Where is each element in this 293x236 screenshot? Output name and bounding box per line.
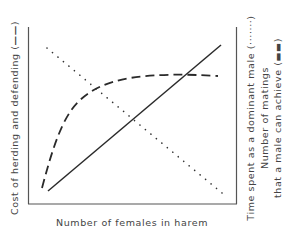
series-dominance-time: [47, 48, 222, 193]
right-axis-label-2: Number of matings: [259, 67, 270, 169]
series-matings: [42, 75, 218, 188]
series-cost: [48, 45, 221, 191]
harem-chart: Number of females in harem Cost of herdi…: [0, 0, 293, 236]
right-axis-label-1: Time spent as a dominant male (·······): [245, 15, 256, 221]
left-axis-label: Cost of herding and defending (——): [9, 21, 20, 215]
right-axis-label-3: that a male can achieve (▬▬): [272, 38, 283, 198]
x-axis-label: Number of females in harem: [56, 217, 208, 228]
